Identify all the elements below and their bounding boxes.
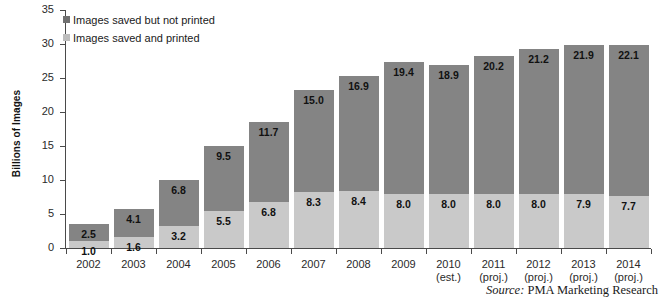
bar-value-label: 8.0 (474, 199, 514, 210)
x-axis-year: 2009 (391, 258, 415, 270)
bar-value-label: 20.2 (474, 61, 514, 72)
bar-segment-saved-not-printed[interactable]: 22.1 (609, 45, 649, 195)
y-axis-tick-label: 25 (24, 72, 54, 83)
bar-value-label: 8.3 (294, 197, 334, 208)
bar-value-label: 7.7 (609, 201, 649, 212)
bar-group[interactable]: 8.315.0 (294, 90, 334, 248)
bar-group[interactable]: 7.722.1 (609, 45, 649, 248)
legend-swatch-icon (63, 16, 70, 23)
bar-segment-saved-and-printed[interactable]: 8.4 (339, 191, 379, 248)
bar-value-label: 9.5 (204, 151, 244, 162)
bar-value-label: 21.2 (519, 54, 559, 65)
bar-group[interactable]: 6.811.7 (249, 122, 289, 248)
x-axis-tick-mark (66, 249, 67, 254)
y-axis-tick-label: 30 (24, 38, 54, 49)
bar-value-label: 1.6 (114, 242, 154, 253)
bar-value-label: 15.0 (294, 95, 334, 106)
legend-label: Images saved but not printed (73, 14, 215, 26)
x-axis-tick-mark (606, 249, 607, 254)
bar-group[interactable]: 1.64.1 (114, 209, 154, 248)
y-axis-tick-label: 20 (24, 106, 54, 117)
bar-value-label: 6.8 (159, 185, 199, 196)
bar-value-label: 8.0 (384, 199, 424, 210)
bar-segment-saved-not-printed[interactable]: 16.9 (339, 76, 379, 191)
x-axis-year: 2010 (436, 258, 460, 270)
bar-segment-saved-not-printed[interactable]: 18.9 (429, 65, 469, 194)
x-axis-year: 2013 (571, 258, 595, 270)
bar-segment-saved-and-printed[interactable]: 1.6 (114, 237, 154, 248)
bar-segment-saved-and-printed[interactable]: 7.9 (564, 194, 604, 248)
bar-segment-saved-not-printed[interactable]: 9.5 (204, 146, 244, 211)
chart-legend: Images saved but not printedImages saved… (63, 12, 215, 48)
x-axis-category-label: 2014(proj.) (601, 258, 657, 284)
x-axis-tick-mark (426, 249, 427, 254)
stacked-bar-chart: Billions of Images 05101520253035 1.02.5… (0, 0, 664, 301)
bar-value-label: 5.5 (204, 216, 244, 227)
bar-group[interactable]: 8.021.2 (519, 49, 559, 248)
bar-group[interactable]: 7.921.9 (564, 45, 604, 248)
legend-item[interactable]: Images saved but not printed (63, 12, 215, 27)
y-axis-tick-label: 5 (24, 208, 54, 219)
x-axis-year: 2005 (211, 258, 235, 270)
bar-segment-saved-and-printed[interactable]: 8.3 (294, 192, 334, 248)
x-axis-tick-mark (516, 249, 517, 254)
y-axis-tick-label: 15 (24, 140, 54, 151)
bar-group[interactable]: 8.416.9 (339, 76, 379, 248)
x-axis-year: 2004 (166, 258, 190, 270)
y-axis-tick-label: 10 (24, 174, 54, 185)
bar-value-label: 1.0 (69, 246, 109, 257)
bar-segment-saved-and-printed[interactable]: 5.5 (204, 211, 244, 248)
x-axis-year: 2012 (526, 258, 550, 270)
bar-value-label: 2.5 (69, 229, 109, 240)
x-axis-tick-mark (336, 249, 337, 254)
x-axis-tick-mark (471, 249, 472, 254)
bar-segment-saved-not-printed[interactable]: 15.0 (294, 90, 334, 192)
bar-segment-saved-and-printed[interactable]: 7.7 (609, 196, 649, 248)
bar-value-label: 8.4 (339, 196, 379, 207)
bar-segment-saved-not-printed[interactable]: 21.2 (519, 49, 559, 193)
bar-group[interactable]: 8.018.9 (429, 65, 469, 248)
x-axis-tick-mark (651, 249, 652, 254)
bar-segment-saved-and-printed[interactable]: 3.2 (159, 226, 199, 248)
bar-value-label: 22.1 (609, 50, 649, 61)
bar-segment-saved-not-printed[interactable]: 20.2 (474, 56, 514, 193)
bar-value-label: 18.9 (429, 70, 469, 81)
x-axis-tick-mark (291, 249, 292, 254)
source-text: PMA Marketing Research (527, 283, 658, 297)
bar-group[interactable]: 8.020.2 (474, 56, 514, 248)
x-axis-tick-mark (201, 249, 202, 254)
bar-segment-saved-and-printed[interactable]: 1.0 (69, 241, 109, 248)
bar-segment-saved-and-printed[interactable]: 8.0 (384, 194, 424, 248)
bar-segment-saved-not-printed[interactable]: 4.1 (114, 209, 154, 237)
bar-segment-saved-and-printed[interactable]: 8.0 (519, 194, 559, 248)
bar-segment-saved-not-printed[interactable]: 21.9 (564, 45, 604, 194)
legend-label: Images saved and printed (73, 32, 200, 44)
bar-segment-saved-and-printed[interactable]: 8.0 (474, 194, 514, 248)
bar-segment-saved-and-printed[interactable]: 6.8 (249, 202, 289, 248)
bar-group[interactable]: 1.02.5 (69, 224, 109, 248)
bar-group[interactable]: 8.019.4 (384, 62, 424, 248)
bar-value-label: 3.2 (159, 231, 199, 242)
source-note: Source: PMA Marketing Research (486, 283, 658, 298)
legend-item[interactable]: Images saved and printed (63, 30, 215, 45)
bar-value-label: 19.4 (384, 67, 424, 78)
bar-group[interactable]: 5.59.5 (204, 146, 244, 248)
x-axis-year: 2014 (616, 258, 640, 270)
bar-segment-saved-not-printed[interactable]: 11.7 (249, 122, 289, 202)
bar-value-label: 6.8 (249, 207, 289, 218)
x-axis-year: 2002 (76, 258, 100, 270)
bar-value-label: 11.7 (249, 127, 289, 138)
bar-segment-saved-not-printed[interactable]: 2.5 (69, 224, 109, 241)
legend-swatch-icon (63, 34, 70, 41)
x-axis-tick-mark (381, 249, 382, 254)
x-axis-tick-mark (156, 249, 157, 254)
bar-segment-saved-and-printed[interactable]: 8.0 (429, 194, 469, 248)
x-axis-tick-mark (111, 249, 112, 254)
bar-segment-saved-not-printed[interactable]: 19.4 (384, 62, 424, 194)
source-prefix: Source: (486, 283, 524, 297)
bar-segment-saved-not-printed[interactable]: 6.8 (159, 180, 199, 226)
bar-value-label: 4.1 (114, 214, 154, 225)
x-axis-year: 2003 (121, 258, 145, 270)
x-axis-tick-mark (561, 249, 562, 254)
bar-group[interactable]: 3.26.8 (159, 180, 199, 248)
